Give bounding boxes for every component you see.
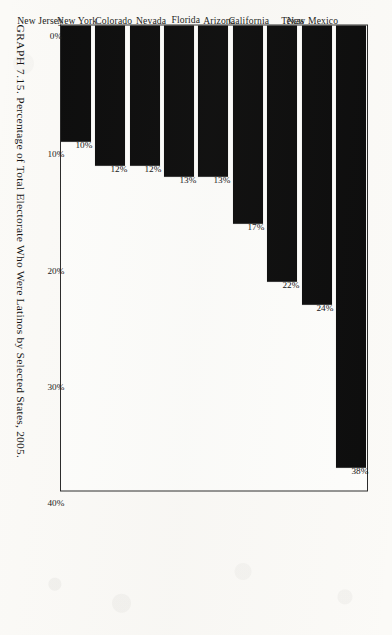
- bar: [198, 25, 228, 176]
- bar-value-label: 10%: [76, 141, 93, 150]
- bar-value-label: 24%: [317, 303, 334, 312]
- scanned-book-page: 38%24%22%17%13%13%12%12%10% New MexicoTe…: [0, 0, 392, 635]
- bar: [267, 25, 297, 281]
- bar-row: 22%: [267, 25, 297, 490]
- bar-value-label: 12%: [110, 164, 127, 173]
- bar: [233, 25, 263, 223]
- category-label: New Jersey: [17, 15, 63, 25]
- value-axis-ticks: 0%10%20%30%40%: [34, 24, 56, 491]
- category-label: Nevada: [136, 15, 166, 25]
- caption-graph-number: GRAPH 7.15.: [15, 24, 27, 94]
- axis-tick-label: 40%: [47, 499, 64, 508]
- bar: [164, 25, 194, 176]
- bar-row: 24%: [302, 25, 332, 490]
- bar-row: 12%: [130, 25, 160, 490]
- bar-value-label: 13%: [213, 176, 230, 185]
- category-axis-labels: New MexicoTexasCaliforniaArizonaFloridaN…: [37, 0, 343, 24]
- bar-row: 10%: [61, 25, 91, 490]
- bar-value-label: 13%: [179, 176, 196, 185]
- bar-value-label: 22%: [282, 280, 299, 289]
- category-label: Colorado: [95, 15, 132, 25]
- caption-body: Percentage of Total Electorate Who Were …: [15, 97, 27, 458]
- bar-row: 38%: [336, 25, 366, 490]
- axis-tick-label: 10%: [47, 150, 64, 159]
- bar-row: 12%: [95, 25, 125, 490]
- figure-bar-chart: 38%24%22%17%13%13%12%12%10% New MexicoTe…: [0, 0, 392, 635]
- bar: [130, 25, 160, 165]
- category-label: Texas: [281, 15, 304, 25]
- category-label: Florida: [172, 15, 201, 25]
- bar: [302, 25, 332, 304]
- bar: [336, 25, 366, 467]
- axis-tick-label: 30%: [47, 382, 64, 391]
- bar-row: 13%: [198, 25, 228, 490]
- axis-tick-label: 20%: [47, 266, 64, 275]
- axis-tick-label: 0%: [50, 31, 62, 40]
- bar-value-label: 17%: [248, 222, 265, 231]
- bar: [61, 25, 91, 141]
- bar-series: 38%24%22%17%13%13%12%12%10%: [61, 25, 367, 490]
- bar-row: 13%: [164, 25, 194, 490]
- bar-row: 17%: [233, 25, 263, 490]
- figure-caption: GRAPH 7.15. Percentage of Total Electora…: [15, 24, 26, 624]
- category-label: New York: [57, 15, 97, 25]
- bar-value-label: 12%: [145, 164, 162, 173]
- bar: [95, 25, 125, 165]
- rotated-figure-container: 38%24%22%17%13%13%12%12%10% New MexicoTe…: [0, 0, 392, 635]
- bar-value-label: 38%: [351, 466, 368, 475]
- category-label: Arizona: [203, 15, 235, 25]
